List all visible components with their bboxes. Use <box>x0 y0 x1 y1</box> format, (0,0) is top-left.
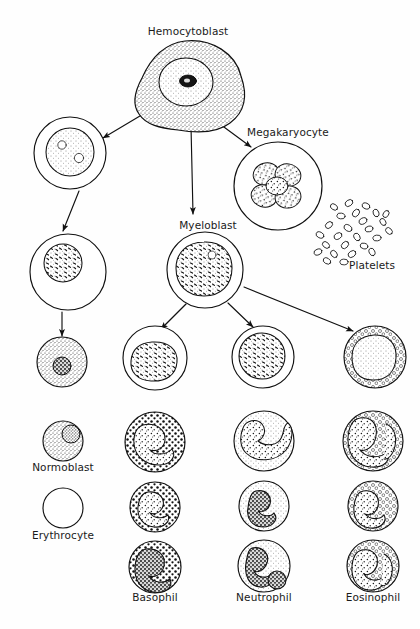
eosinophil-myelocyte-cell <box>344 326 406 388</box>
arrow-hemocytoblast-to-myeloblast <box>191 126 193 214</box>
neutrophil-mature-cell <box>238 540 290 592</box>
normoblast-stage-cell <box>37 337 87 387</box>
eosinophil-mid-cell <box>348 481 398 531</box>
arrow-myeloblast-to-basophil <box>161 304 186 329</box>
diagram-canvas: Hemocytoblast Megakaryocyte Platelets My… <box>0 0 420 629</box>
normoblast-legend-cell <box>43 421 83 461</box>
label-myeloblast: Myeloblast <box>179 220 237 231</box>
arrow-erythroid-1-to-2 <box>63 191 79 231</box>
label-platelets: Platelets <box>349 260 395 271</box>
arrow-myeloblast-to-eosinophil <box>244 287 353 331</box>
neutrophil-mid-cell <box>239 481 289 531</box>
erythrocyte-legend-cell <box>43 488 83 528</box>
myeloblast-cell <box>167 232 243 308</box>
neutrophil-band-cell <box>234 411 294 471</box>
proerythroblast-cell <box>34 117 106 189</box>
label-eosinophil: Eosinophil <box>346 592 401 603</box>
label-neutrophil: Neutrophil <box>236 592 292 603</box>
platelets-cluster <box>313 198 394 265</box>
label-megakaryocyte: Megakaryocyte <box>247 127 329 138</box>
basophil-myelocyte-cell <box>123 326 187 390</box>
hemocytoblast-cell <box>135 41 245 132</box>
label-hemocytoblast: Hemocytoblast <box>148 26 228 37</box>
eosinophil-mature-cell <box>347 540 399 592</box>
label-normoblast: Normoblast <box>32 462 94 473</box>
neutrophil-myelocyte-cell <box>232 326 294 388</box>
eosinophil-band-cell <box>343 411 403 471</box>
basophil-mid-cell <box>130 482 180 532</box>
megakaryocyte-cell <box>234 142 322 230</box>
erythroblast-cell <box>30 234 106 310</box>
basophil-mature-cell <box>129 541 181 593</box>
basophil-band-cell <box>125 412 185 472</box>
label-basophil: Basophil <box>132 592 178 603</box>
arrow-myeloblast-to-neutrophil <box>228 303 253 327</box>
label-erythrocyte: Erythrocyte <box>32 530 94 541</box>
